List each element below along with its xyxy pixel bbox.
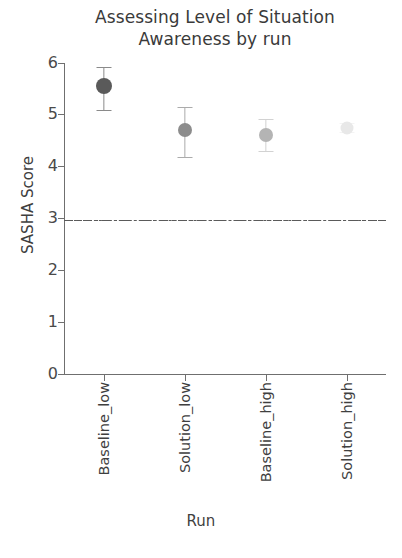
y-tick-6 [58,63,65,64]
y-tick-5 [58,114,65,115]
y-tick-1 [58,322,65,323]
x-tick-label-solution-high: Solution_high [340,382,355,514]
plot-area: 6 5 4 3 2 1 0 [0,0,402,558]
y-tick-4 [58,166,65,167]
errorbar-baseline-low [96,63,112,375]
errorbar-solution-low [177,63,193,375]
data-point-baseline-high [259,128,273,142]
x-axis-title: Run [151,512,251,530]
errorbar-baseline-high [258,63,274,375]
y-axis-title: SASHA Score [19,135,37,275]
x-tick-0 [104,374,105,381]
x-tick-label-baseline-low: Baseline_low [97,382,112,514]
x-tick-3 [347,374,348,381]
y-tick-label-6: 6 [18,55,58,71]
errorbar-cap-upper [259,119,274,120]
data-point-solution-low [178,123,192,137]
errorbar-cap-lower [259,151,274,152]
data-point-baseline-low [96,78,112,94]
errorbar-cap-lower [178,157,193,158]
errorbar-cap-upper [178,107,193,108]
x-tick-2 [266,374,267,381]
x-axis-line [64,374,386,375]
y-tick-label-1: 1 [18,314,58,330]
x-tick-1 [185,374,186,381]
data-point-solution-high [341,122,354,135]
errorbar-cap-lower [97,110,112,111]
y-tick-label-5: 5 [18,106,58,122]
y-tick-label-0: 0 [18,366,58,382]
reference-line-y3 [64,220,386,221]
x-tick-label-solution-low: Solution_low [178,382,193,514]
x-tick-label-baseline-high: Baseline_high [259,382,274,514]
chart-figure: Assessing Level of Situation Awareness b… [0,0,402,558]
y-tick-0 [58,374,65,375]
errorbar-solution-high [339,63,355,375]
y-tick-2 [58,270,65,271]
errorbar-cap-upper [97,67,112,68]
